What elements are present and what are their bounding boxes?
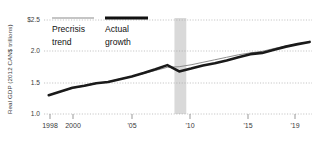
x-tick-label-1998: 1998 (42, 122, 58, 129)
gdp-line-chart: $2.5 2.0 1.5 1.0 Real GDP (2012 CAN$ tri… (0, 0, 320, 145)
y-tick-label-2-0: 2.0 (31, 47, 40, 54)
x-tick-label-2019: '19 (290, 122, 299, 129)
chart-container: $2.5 2.0 1.5 1.0 Real GDP (2012 CAN$ tri… (0, 0, 320, 145)
y-tick-label-1-5: 1.5 (31, 79, 40, 86)
x-tick-label-2010: '10 (185, 122, 194, 129)
y-tick-label-2-5: $2.5 (27, 16, 40, 23)
x-tick-label-2005: '05 (127, 122, 136, 129)
legend-label-precrisis-trend-line1: Precrisis (52, 24, 85, 34)
y-axis-title: Real GDP (2012 CAN$ trillions) (6, 24, 13, 114)
y-tick-label-1-0: 1.0 (31, 110, 40, 117)
legend-label-actual-growth-line2: growth (105, 37, 131, 47)
legend-label-actual-growth-line1: Actual (105, 24, 129, 34)
x-tick-label-2015: '15 (243, 122, 252, 129)
x-tick-label-2000: 2000 (65, 122, 81, 129)
legend-label-precrisis-trend-line2: trend (52, 37, 72, 47)
